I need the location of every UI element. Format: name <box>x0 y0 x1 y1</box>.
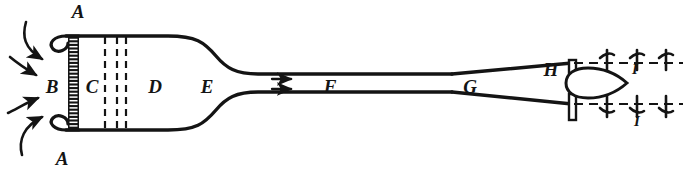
lower-wall-contour <box>66 92 452 130</box>
upper-wall-contour <box>66 36 452 74</box>
label-F: F <box>323 76 337 97</box>
label-I-top: I <box>631 61 639 77</box>
honeycomb-block <box>68 36 79 130</box>
label-A-top: A <box>71 1 85 22</box>
inlet-flow-arrows <box>8 22 42 155</box>
fan-shaft-lower <box>569 94 576 120</box>
blade-mark-upper-1 <box>600 50 614 70</box>
label-C: C <box>86 76 99 97</box>
blade-mark-upper-3 <box>659 50 673 70</box>
inlet-flow-arrow-1 <box>24 22 42 59</box>
label-G: G <box>463 76 477 97</box>
blade-mark-lower-1 <box>600 96 614 117</box>
label-D: D <box>147 76 162 97</box>
label-H: H <box>543 59 560 80</box>
inlet-flow-arrow-3 <box>8 98 38 113</box>
fan-hub-body <box>566 68 627 98</box>
inlet-flow-arrow-2 <box>10 57 36 75</box>
working-section-flow-arrows <box>272 79 291 89</box>
duct-walls <box>51 36 572 130</box>
wind-tunnel-diagram: A A B C D E F G H I I <box>0 0 685 179</box>
label-B: B <box>45 76 59 97</box>
diagram-labels: A A B C D E F G H I I <box>45 1 641 169</box>
fan-assembly <box>566 60 627 120</box>
blade-mark-lower-3 <box>659 96 673 117</box>
diagram-canvas: A A B C D E F G H I I <box>0 0 685 179</box>
label-E: E <box>200 76 214 97</box>
screen-lines <box>105 37 126 129</box>
label-I-bottom: I <box>633 113 641 129</box>
inlet-flow-arrow-4 <box>21 117 42 155</box>
label-A-bottom: A <box>55 148 69 169</box>
